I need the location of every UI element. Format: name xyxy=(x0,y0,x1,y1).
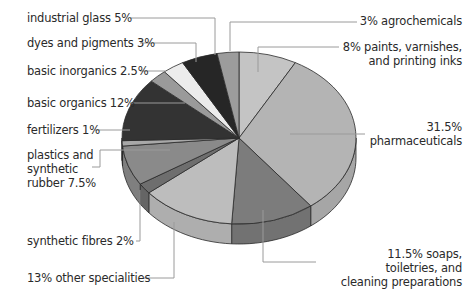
label-plastics-line3: rubber 7.5% xyxy=(27,176,96,190)
label-dyes-and-pigments: dyes and pigments 3% xyxy=(27,36,155,50)
pie-top-face xyxy=(122,52,356,224)
label-soaps-line1: 11.5% soaps, xyxy=(341,247,462,261)
label-plastics-line1: plastics and xyxy=(27,148,96,162)
label-soaps-line3: cleaning preparations xyxy=(341,275,462,289)
label-fertilizers: fertilizers 1% xyxy=(27,123,100,137)
label-pharmaceuticals: 31.5% pharmaceuticals xyxy=(370,120,462,148)
label-basic-inorganics: basic inorganics 2.5% xyxy=(27,64,148,78)
label-other-specialities: 13% other specialities xyxy=(27,271,150,285)
label-soaps-line2: toiletries, and xyxy=(341,261,462,275)
label-plastics-line2: synthetic xyxy=(27,162,96,176)
label-pharma-line2: pharmaceuticals xyxy=(370,134,462,148)
label-industrial-glass: industrial glass 5% xyxy=(27,11,132,25)
label-synthetic-fibres: synthetic fibres 2% xyxy=(27,234,134,248)
label-pharma-line1: 31.5% xyxy=(370,120,462,134)
label-agrochemicals: 3% agrochemicals xyxy=(360,14,462,28)
label-soaps: 11.5% soaps, toiletries, and cleaning pr… xyxy=(341,247,462,289)
label-paints: 8% paints, varnishes, and printing inks xyxy=(343,40,462,68)
label-basic-organics: basic organics 12% xyxy=(27,96,135,110)
label-paints-line1: 8% paints, varnishes, xyxy=(343,40,462,54)
label-paints-line2: and printing inks xyxy=(343,54,462,68)
label-plastics: plastics and synthetic rubber 7.5% xyxy=(27,148,96,190)
